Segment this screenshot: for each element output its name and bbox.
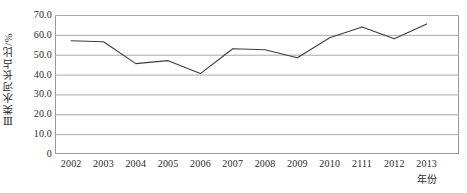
y-axis-tick-label: 70.0 [18,10,52,20]
y-axis-tick-label: 30.0 [18,89,52,99]
plot-svg [55,15,459,154]
y-axis-title-text: Ⅲ类水河长占比/% [4,33,15,127]
y-axis-tick-label: 50.0 [18,50,52,60]
plot-area [55,15,459,154]
x-axis-tick-label: 2013 [405,158,449,169]
x-axis-title: 年份 [405,174,449,185]
x-axis-tick-labels: 2002200320042005200620072008200920102111… [0,158,467,176]
y-axis-tick-label: 40.0 [18,70,52,80]
y-axis-tick-label: 20.0 [18,109,52,119]
data-series-line [71,24,427,74]
y-axis-tick-label: 10.0 [18,129,52,139]
gridlines [55,16,459,135]
y-axis-tick-label: 60.0 [18,30,52,40]
line-chart: Ⅲ类水河长占比/% 70.060.050.040.030.020.010.00 … [0,0,467,193]
